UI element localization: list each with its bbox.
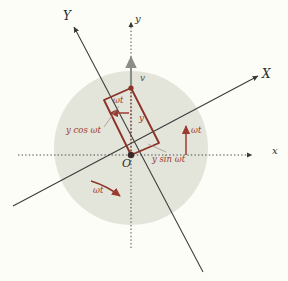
axis-label-x-lowercase: x [272,146,278,156]
rotating-disk [54,71,208,225]
axis-label-y-lowercase: y [135,14,141,24]
omega-t-rotation-label: ωt [93,186,103,195]
physics-diagram: Y y X x O v y ωt y cos ωt y sin ωt ωt ωt [0,0,288,281]
omega-t-angle-label: ωt [191,126,201,135]
diagram-canvas [0,0,288,281]
y-sin-omega-t-label: y sin ωt [152,155,185,164]
axis-label-X-uppercase: X [262,68,271,80]
y-cos-omega-t-label: y cos ωt [66,126,101,135]
y-component-label: y [139,114,144,123]
velocity-label: v [140,74,145,83]
origin-label: O [122,158,131,169]
axis-label-Y-uppercase: Y [63,10,71,22]
particle-point [128,85,133,90]
omega-t-rectangle-label: ωt [113,96,123,105]
